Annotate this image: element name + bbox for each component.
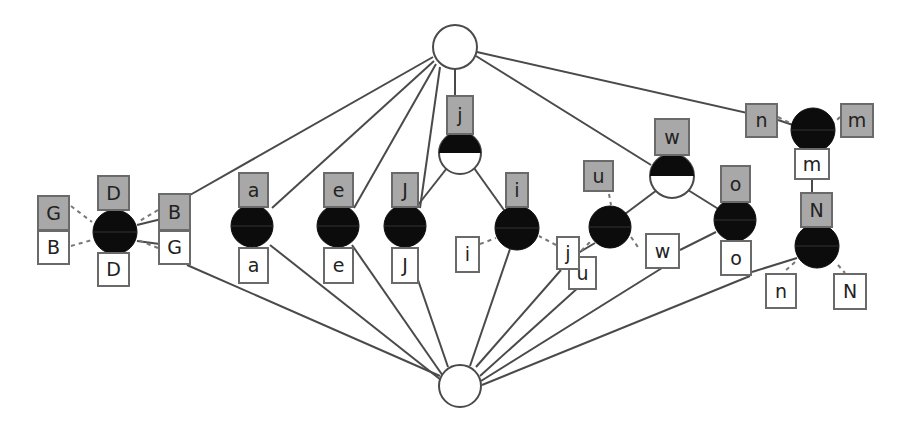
- label-box-white[interactable]: i: [455, 236, 480, 273]
- label-box-gray[interactable]: n: [745, 103, 778, 138]
- edge-line: [476, 270, 561, 367]
- dashed-edge: [838, 265, 845, 273]
- label-box-gray[interactable]: a: [238, 172, 269, 208]
- label-box-gray[interactable]: j: [446, 95, 474, 135]
- edge-line: [477, 52, 778, 120]
- label-box-gray[interactable]: u: [583, 160, 614, 192]
- label-box-gray[interactable]: w: [654, 118, 690, 156]
- edge-line: [482, 276, 750, 385]
- edge-line: [680, 232, 716, 250]
- edge-line: [752, 258, 797, 272]
- label-box-white[interactable]: a: [238, 247, 269, 284]
- node-top-half: [439, 132, 481, 153]
- label-box-white[interactable]: j: [556, 236, 580, 270]
- label-box-gray[interactable]: D: [97, 175, 130, 211]
- label-box-white[interactable]: n: [765, 273, 797, 309]
- edge-line: [625, 190, 657, 214]
- label-box-white[interactable]: m: [794, 148, 830, 180]
- label-box-white[interactable]: B: [37, 230, 70, 265]
- dashed-edge: [71, 206, 92, 222]
- label-box-gray[interactable]: J: [391, 172, 419, 208]
- dashed-edge: [784, 262, 795, 272]
- graph-canvas: [0, 0, 913, 438]
- label-box-gray[interactable]: G: [37, 195, 70, 231]
- label-box-gray[interactable]: B: [158, 193, 191, 231]
- label-box-gray[interactable]: i: [505, 172, 529, 208]
- label-box-gray[interactable]: o: [720, 165, 751, 203]
- edge-line: [688, 190, 720, 210]
- label-box-white[interactable]: o: [720, 240, 752, 276]
- dashed-edge: [609, 194, 611, 205]
- label-box-gray[interactable]: e: [323, 172, 354, 208]
- edge-line: [480, 286, 580, 376]
- label-box-white[interactable]: e: [323, 247, 354, 284]
- label-box-white[interactable]: D: [97, 252, 130, 287]
- label-box-gray[interactable]: N: [800, 192, 833, 228]
- label-box-white[interactable]: G: [158, 230, 191, 265]
- label-box-white[interactable]: J: [391, 247, 419, 284]
- label-box-gray[interactable]: m: [840, 103, 874, 138]
- dashed-edge: [480, 238, 496, 244]
- edge-line: [418, 280, 448, 367]
- edge-line: [474, 168, 504, 210]
- dashed-edge: [539, 236, 556, 245]
- dashed-edge: [631, 237, 640, 250]
- root-bottom-node[interactable]: [439, 365, 481, 407]
- node-top-half: [650, 154, 694, 176]
- dashed-edge: [71, 240, 92, 246]
- label-box-white[interactable]: N: [833, 273, 867, 310]
- label-box-white[interactable]: w: [645, 233, 680, 269]
- root-top-node[interactable]: [433, 25, 477, 69]
